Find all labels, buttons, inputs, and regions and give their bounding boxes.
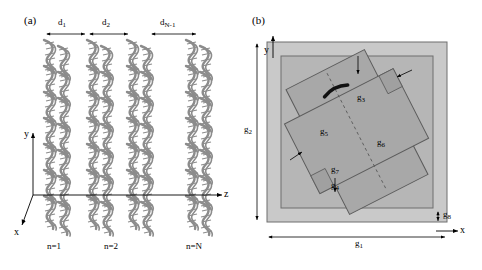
dimension-label-g4: g4 xyxy=(331,180,339,192)
column-label-nN: n=N xyxy=(186,241,202,251)
dimension-label-g1: g1 xyxy=(355,238,363,250)
dimension-label-g7: g7 xyxy=(331,164,339,176)
panel-a-axis-y: y xyxy=(24,128,29,139)
column-label-n1: n=1 xyxy=(47,241,61,251)
panel-a-axis-z: z xyxy=(224,188,228,199)
panel-b-diagram xyxy=(240,0,482,270)
panel-b-axis-y: y xyxy=(264,44,269,55)
dimension-label-g8: g8 xyxy=(443,209,451,221)
dimension-label-g3: g3 xyxy=(357,92,365,104)
figure-container: (a) (b) xyxy=(0,0,482,270)
dimension-label-g5: g5 xyxy=(320,126,328,138)
panel-a-diagram xyxy=(0,0,240,270)
dimension-label-d2: d2 xyxy=(102,17,110,29)
dimension-label-d1: d1 xyxy=(58,17,66,29)
panel-a-axis-x: x xyxy=(14,226,19,237)
helix-columns xyxy=(44,40,212,236)
panel-b-axis-x: x xyxy=(460,224,465,235)
dimension-label-g6: g6 xyxy=(377,137,385,149)
column-label-n2: n=2 xyxy=(104,241,118,251)
dimension-label-g2: g2 xyxy=(244,124,252,136)
dimension-label-dN1: dN-1 xyxy=(160,17,175,29)
